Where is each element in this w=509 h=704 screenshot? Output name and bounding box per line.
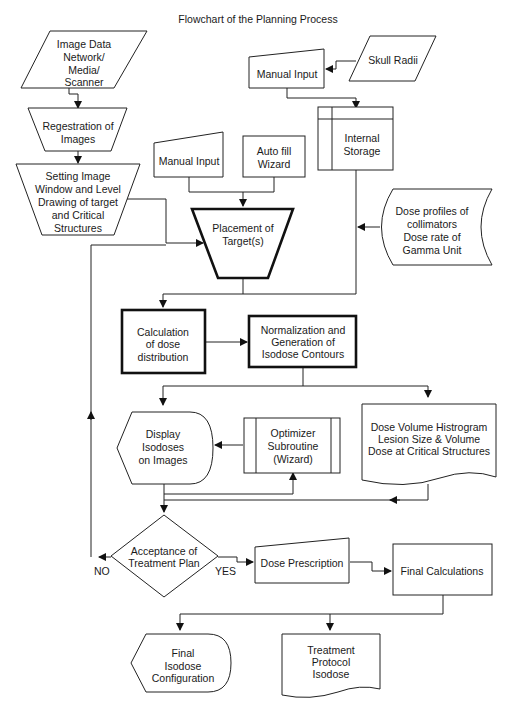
node-label: Generation of bbox=[271, 336, 335, 348]
node-image-data[interactable]: Image Data Network/ Media/ Scanner bbox=[21, 31, 147, 88]
node-label: Optimizer bbox=[271, 427, 316, 439]
node-label: Dose profiles of bbox=[396, 205, 469, 217]
node-label: Wizard bbox=[258, 158, 291, 170]
node-placement-of-targets[interactable]: Placement of Target(s) bbox=[192, 209, 293, 278]
node-label: Treatment bbox=[307, 644, 355, 656]
node-label: Regestration of bbox=[42, 120, 113, 132]
node-final-isodose[interactable]: Final Isodose Configuration bbox=[131, 634, 231, 692]
node-calculation-of-dose[interactable]: Calculation of dose distribution bbox=[122, 310, 205, 373]
node-label: Target(s) bbox=[222, 235, 263, 247]
node-label: Lesion Size & Volume bbox=[378, 433, 480, 445]
node-label: collimators bbox=[407, 218, 457, 230]
node-label: Treatment Plan bbox=[128, 557, 200, 569]
node-manual-input-top[interactable]: Manual Input bbox=[249, 49, 324, 88]
node-label: Final bbox=[172, 647, 195, 659]
node-label: Dose rate of bbox=[403, 231, 460, 243]
node-label: Image Data bbox=[57, 38, 111, 50]
node-label: Manual Input bbox=[257, 68, 318, 80]
node-optimizer-subroutine[interactable]: Optimizer Subroutine (Wizard) bbox=[244, 418, 340, 473]
node-label: Display bbox=[146, 428, 181, 440]
node-label: Internal bbox=[344, 132, 379, 144]
edge-label-no: NO bbox=[94, 565, 110, 577]
node-label: Dose Prescription bbox=[261, 557, 344, 569]
node-final-calculations[interactable]: Final Calculations bbox=[393, 544, 492, 595]
node-label: Subroutine bbox=[268, 440, 319, 452]
node-label: Drawing of target bbox=[38, 196, 118, 208]
node-label: Dose at Critical Structures bbox=[368, 445, 490, 457]
node-label: Skull Radii bbox=[368, 54, 418, 66]
node-label: Configuration bbox=[152, 672, 215, 684]
node-label: on Images bbox=[138, 454, 187, 466]
node-label: Structures bbox=[54, 222, 102, 234]
node-label: Scanner bbox=[64, 76, 104, 88]
node-label: and Critical bbox=[52, 209, 105, 221]
node-treatment-protocol[interactable]: Treatment Protocol Isodose bbox=[282, 634, 380, 697]
node-label: Images bbox=[61, 133, 95, 145]
node-skull-radii[interactable]: Skull Radii bbox=[349, 36, 436, 81]
node-label: Gamma Unit bbox=[403, 244, 462, 256]
node-label: (Wizard) bbox=[273, 453, 313, 465]
node-label: Storage bbox=[344, 145, 381, 157]
node-label: Isodose bbox=[165, 660, 202, 672]
node-manual-input-mid[interactable]: Manual Input bbox=[154, 132, 223, 177]
node-dose-prescription[interactable]: Dose Prescription bbox=[255, 538, 349, 583]
node-label: Normalization and bbox=[261, 324, 346, 336]
node-label: Auto fill bbox=[257, 145, 291, 157]
node-setting-image[interactable]: Setting Image Window and Level Drawing o… bbox=[16, 164, 140, 235]
node-label: Isodoses bbox=[142, 441, 184, 453]
node-label: Isodose Contours bbox=[262, 348, 344, 360]
node-normalization[interactable]: Normalization and Generation of Isodose … bbox=[249, 316, 356, 367]
node-label: Dose Volume Histrogram bbox=[371, 421, 488, 433]
node-label: Window and Level bbox=[35, 183, 121, 195]
edge-label-yes: YES bbox=[215, 565, 236, 577]
node-display-isodoses[interactable]: Display Isodoses on Images bbox=[117, 412, 213, 484]
node-internal-storage[interactable]: Internal Storage bbox=[318, 107, 393, 170]
node-label: Manual Input bbox=[159, 155, 220, 167]
node-label: distribution bbox=[138, 351, 189, 363]
node-label: Protocol bbox=[312, 656, 351, 668]
node-registration[interactable]: Regestration of Images bbox=[28, 108, 127, 151]
flowchart-title: Flowchart of the Planning Process bbox=[178, 13, 337, 25]
node-label: Calculation bbox=[137, 326, 189, 338]
node-label: Placement of bbox=[212, 222, 273, 234]
node-label: Final Calculations bbox=[401, 565, 484, 577]
node-label: Setting Image bbox=[46, 170, 111, 182]
node-label: Acceptance of bbox=[131, 545, 198, 557]
node-label: Media/ bbox=[68, 64, 100, 76]
node-label: of dose bbox=[146, 338, 181, 350]
node-label: Isodose bbox=[313, 668, 350, 680]
planning-process-flowchart: Flowchart of the Planning Process bbox=[0, 0, 509, 704]
node-label: Network/ bbox=[63, 51, 105, 63]
node-dose-volume-histogram[interactable]: Dose Volume Histrogram Lesion Size & Vol… bbox=[362, 404, 496, 485]
node-acceptance-decision[interactable]: Acceptance of Treatment Plan bbox=[111, 515, 218, 597]
node-auto-fill-wizard[interactable]: Auto fill Wizard bbox=[243, 136, 305, 177]
node-dose-profiles[interactable]: Dose profiles of collimators Dose rate o… bbox=[382, 189, 493, 265]
